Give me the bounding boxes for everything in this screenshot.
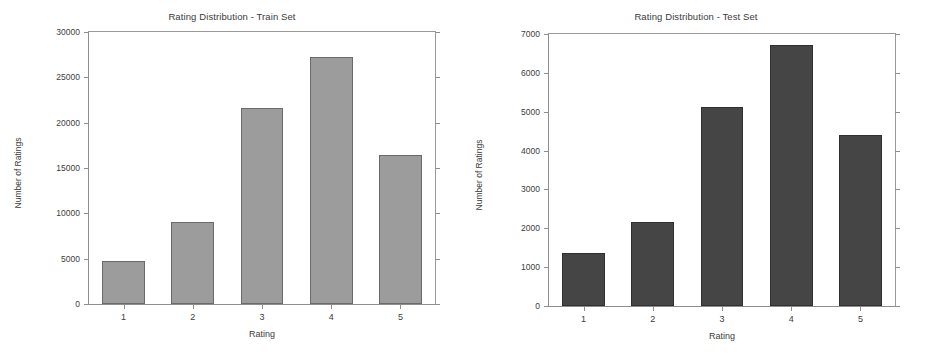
y-tick-label-test-1: 1000 bbox=[521, 262, 540, 272]
x-axis-title-test: Rating bbox=[548, 331, 896, 341]
y-tick-right-train-3 bbox=[435, 168, 440, 169]
chart-panel-test: Rating Distribution - Test Set 010002000… bbox=[464, 0, 928, 357]
x-tick-train-2 bbox=[262, 304, 263, 309]
y-tick-label-test-0: 0 bbox=[535, 301, 540, 311]
y-tick-test-7 bbox=[544, 34, 549, 35]
y-tick-label-train-0: 0 bbox=[75, 299, 80, 309]
y-tick-right-train-1 bbox=[435, 259, 440, 260]
x-tick-label-test-0: 1 bbox=[581, 314, 586, 324]
y-tick-right-test-2 bbox=[895, 228, 900, 229]
y-tick-train-6 bbox=[84, 32, 89, 33]
plot-area-train: 05000100001500020000250003000012345 bbox=[88, 31, 436, 305]
y-tick-test-6 bbox=[544, 73, 549, 74]
y-tick-test-4 bbox=[544, 151, 549, 152]
chart-title-train: Rating Distribution - Train Set bbox=[0, 11, 464, 22]
y-tick-label-test-6: 6000 bbox=[521, 68, 540, 78]
bar-test-3 bbox=[701, 107, 744, 306]
x-tick-label-train-1: 2 bbox=[190, 312, 195, 322]
bar-train-5 bbox=[379, 155, 422, 304]
y-tick-label-test-2: 2000 bbox=[521, 223, 540, 233]
y-tick-test-2 bbox=[544, 228, 549, 229]
x-axis-title-train: Rating bbox=[88, 329, 436, 339]
x-tick-train-3 bbox=[331, 304, 332, 309]
x-tick-label-train-2: 3 bbox=[259, 312, 264, 322]
chart-panel-train: Rating Distribution - Train Set 05000100… bbox=[0, 0, 464, 357]
y-tick-label-test-5: 5000 bbox=[521, 107, 540, 117]
y-tick-label-train-5: 25000 bbox=[56, 72, 80, 82]
bar-train-2 bbox=[171, 222, 214, 305]
y-tick-train-4 bbox=[84, 123, 89, 124]
y-tick-right-test-6 bbox=[895, 73, 900, 74]
bar-test-2 bbox=[631, 222, 674, 306]
bar-test-5 bbox=[839, 135, 882, 306]
y-tick-right-test-5 bbox=[895, 112, 900, 113]
x-tick-label-train-3: 4 bbox=[329, 312, 334, 322]
y-tick-label-train-4: 20000 bbox=[56, 118, 80, 128]
y-axis-title-test: Number of Ratings bbox=[474, 140, 484, 211]
x-tick-label-test-2: 3 bbox=[719, 314, 724, 324]
bar-train-1 bbox=[102, 261, 145, 304]
y-tick-test-5 bbox=[544, 112, 549, 113]
chart-title-test: Rating Distribution - Test Set bbox=[464, 11, 928, 22]
y-tick-label-test-7: 7000 bbox=[521, 29, 540, 39]
y-tick-right-train-6 bbox=[435, 32, 440, 33]
x-tick-test-1 bbox=[653, 306, 654, 311]
y-tick-label-test-4: 4000 bbox=[521, 146, 540, 156]
y-tick-test-1 bbox=[544, 267, 549, 268]
y-tick-train-3 bbox=[84, 168, 89, 169]
y-tick-right-train-2 bbox=[435, 213, 440, 214]
y-tick-label-train-1: 5000 bbox=[61, 254, 80, 264]
y-tick-test-3 bbox=[544, 189, 549, 190]
y-tick-right-test-1 bbox=[895, 267, 900, 268]
y-tick-test-0 bbox=[544, 306, 549, 307]
y-tick-right-train-5 bbox=[435, 77, 440, 78]
y-tick-label-test-3: 3000 bbox=[521, 184, 540, 194]
x-tick-label-test-3: 4 bbox=[789, 314, 794, 324]
figure-row: Rating Distribution - Train Set 05000100… bbox=[0, 0, 928, 357]
y-tick-train-5 bbox=[84, 77, 89, 78]
x-tick-test-4 bbox=[860, 306, 861, 311]
y-tick-right-test-0 bbox=[895, 306, 900, 307]
x-tick-test-3 bbox=[791, 306, 792, 311]
y-tick-train-1 bbox=[84, 259, 89, 260]
x-tick-label-test-4: 5 bbox=[858, 314, 863, 324]
y-tick-train-2 bbox=[84, 213, 89, 214]
y-tick-train-0 bbox=[84, 304, 89, 305]
y-tick-right-test-3 bbox=[895, 189, 900, 190]
y-tick-right-test-7 bbox=[895, 34, 900, 35]
plot-area-test: 0100020003000400050006000700012345 bbox=[548, 33, 896, 307]
x-tick-train-1 bbox=[193, 304, 194, 309]
x-tick-test-2 bbox=[722, 306, 723, 311]
x-tick-label-train-0: 1 bbox=[121, 312, 126, 322]
bar-train-4 bbox=[310, 57, 353, 304]
x-tick-train-4 bbox=[400, 304, 401, 309]
bar-test-1 bbox=[562, 253, 605, 306]
bar-series-test bbox=[549, 34, 895, 306]
x-tick-test-0 bbox=[584, 306, 585, 311]
y-tick-right-train-0 bbox=[435, 304, 440, 305]
bar-train-3 bbox=[241, 108, 284, 304]
y-tick-right-test-4 bbox=[895, 151, 900, 152]
bar-test-4 bbox=[770, 45, 813, 306]
y-axis-title-train: Number of Ratings bbox=[13, 138, 23, 209]
bar-series-train bbox=[89, 32, 435, 304]
y-tick-right-train-4 bbox=[435, 123, 440, 124]
x-tick-train-0 bbox=[124, 304, 125, 309]
x-tick-label-train-4: 5 bbox=[398, 312, 403, 322]
y-tick-label-train-2: 10000 bbox=[56, 208, 80, 218]
y-tick-label-train-6: 30000 bbox=[56, 27, 80, 37]
x-tick-label-test-1: 2 bbox=[650, 314, 655, 324]
y-tick-label-train-3: 15000 bbox=[56, 163, 80, 173]
